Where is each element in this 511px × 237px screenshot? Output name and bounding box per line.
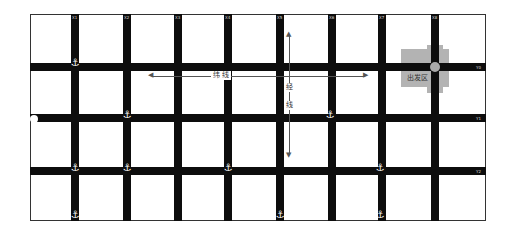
column-tag: X7 (379, 15, 384, 20)
zone-road-horizontal (401, 63, 449, 71)
column-tag: X1 (72, 15, 77, 20)
anchor-icon: ⚓ (222, 162, 234, 174)
column-tag: X2 (124, 15, 129, 20)
column-tag: X6 (329, 15, 334, 20)
grid-map-diagram: X1X2X3X4X5X6X7X8Y0Y1Y2 出发区 ⚓⚓⚓⚓⚓⚓⚓⚓⚓⚓ ◀ … (0, 0, 511, 237)
column-tag: X4 (225, 15, 230, 20)
anchor-icon: ⚓ (69, 57, 81, 69)
anchor-icon: ⚓ (374, 209, 386, 221)
arrow-right-icon: ▶ (363, 72, 368, 79)
departure-hub-icon (430, 62, 440, 72)
latitude-label: 纬 线 (211, 71, 231, 80)
anchor-icon: ⚓ (121, 162, 133, 174)
anchor-icon: ⚓ (274, 209, 286, 221)
latitude-arrow (152, 76, 365, 77)
longitude-arrow (289, 35, 290, 155)
column-tag: X5 (277, 15, 282, 20)
arrow-up-icon: ▲ (286, 31, 291, 38)
column-tag: X8 (432, 15, 437, 20)
start-dot-icon (30, 115, 38, 123)
latitude-road (30, 167, 486, 175)
longitude-label-char-2: 线 (284, 101, 295, 110)
anchor-icon: ⚓ (69, 209, 81, 221)
anchor-icon: ⚓ (324, 109, 336, 121)
anchor-icon: ⚓ (374, 162, 386, 174)
row-tag: Y0 (476, 65, 481, 70)
anchor-icon: ⚓ (69, 162, 81, 174)
row-tag: Y1 (476, 116, 481, 121)
row-tag: Y2 (476, 169, 481, 174)
latitude-road (30, 114, 486, 122)
longitude-label-char-1: 经 (284, 83, 295, 92)
arrow-down-icon: ▼ (286, 152, 291, 159)
column-tag: X3 (175, 15, 180, 20)
anchor-icon: ⚓ (121, 109, 133, 121)
departure-zone-label: 出发区 (407, 72, 428, 82)
arrow-left-icon: ◀ (148, 72, 153, 79)
